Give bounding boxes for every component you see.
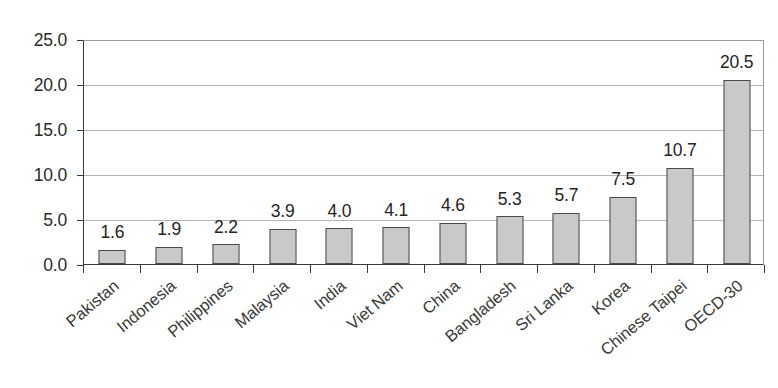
bar[interactable]	[610, 197, 637, 265]
bar-value-label: 1.9	[157, 221, 181, 239]
bar-chart: 25.0 20.0 15.0 10.0 5.0 0.0 1.6 1.9 2.2	[0, 0, 778, 388]
bar-value-label: 1.6	[101, 224, 125, 242]
bar-slot: 7.5	[595, 41, 652, 264]
bar[interactable]	[666, 168, 693, 264]
bar-value-label: 2.2	[214, 219, 238, 237]
x-axis-tick-mark	[83, 265, 84, 273]
x-axis-category-label-pakistan: Pakistan	[23, 277, 122, 364]
bar-slot: 20.5	[708, 41, 765, 264]
x-axis-tick-mark	[537, 265, 538, 273]
x-axis-tick-mark	[764, 265, 765, 273]
bar[interactable]	[383, 227, 410, 264]
y-axis-tick-label: 20.0	[7, 77, 67, 95]
x-axis-tick-mark	[253, 265, 254, 273]
bar[interactable]	[723, 80, 750, 265]
bar-value-label: 5.7	[555, 187, 579, 205]
y-axis-tick-label: 10.0	[7, 167, 67, 185]
bar-slot: 10.7	[652, 41, 709, 264]
bar-slot: 3.9	[254, 41, 311, 264]
bar-value-label: 3.9	[271, 203, 295, 221]
bar-slot: 4.6	[425, 41, 482, 264]
bar-value-label: 20.5	[720, 54, 753, 72]
bar[interactable]	[326, 228, 353, 264]
x-axis-tick-mark	[140, 265, 141, 273]
bar[interactable]	[269, 229, 296, 264]
bar-slot: 5.7	[538, 41, 595, 264]
x-axis-tick-mark	[707, 265, 708, 273]
bar-value-label: 10.7	[663, 142, 696, 160]
y-axis-tick-label: 5.0	[7, 212, 67, 230]
y-axis-tick-label: 25.0	[7, 32, 67, 50]
bar-slot: 1.6	[84, 41, 141, 264]
x-axis-tick-mark	[197, 265, 198, 273]
bar-slot: 4.0	[311, 41, 368, 264]
x-axis-tick-mark	[367, 265, 368, 273]
bar-value-label: 4.6	[441, 197, 465, 215]
x-axis-tick-mark	[480, 265, 481, 273]
plot-area: 1.6 1.9 2.2 3.9 4.0 4.1 4.6	[83, 40, 764, 265]
bar-value-label: 4.1	[384, 202, 408, 220]
bar[interactable]	[439, 223, 466, 264]
bar[interactable]	[212, 244, 239, 264]
bar-value-label: 5.3	[498, 191, 522, 209]
bar[interactable]	[99, 250, 126, 264]
bar-slot: 2.2	[198, 41, 255, 264]
bar-value-label: 7.5	[611, 171, 635, 189]
y-axis-tick-label: 15.0	[7, 122, 67, 140]
bar[interactable]	[156, 247, 183, 264]
x-axis-tick-mark	[594, 265, 595, 273]
bar[interactable]	[553, 213, 580, 264]
x-axis-tick-mark	[651, 265, 652, 273]
bar-value-label: 4.0	[328, 203, 352, 221]
x-axis-tick-mark	[310, 265, 311, 273]
bar-slot: 5.3	[481, 41, 538, 264]
bar-slot: 1.9	[141, 41, 198, 264]
y-axis-tick-label: 0.0	[7, 257, 67, 275]
bar[interactable]	[496, 216, 523, 264]
bar-slot: 4.1	[368, 41, 425, 264]
x-axis-tick-mark	[424, 265, 425, 273]
